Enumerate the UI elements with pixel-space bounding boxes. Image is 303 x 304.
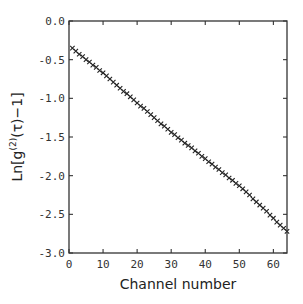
x-tick-label: 20 — [131, 258, 144, 271]
y-tick-label: -3.0 — [39, 247, 66, 260]
x-tick-label: 0 — [66, 258, 73, 271]
y-axis-label-suffix: (τ)−1] — [9, 92, 25, 137]
x-tick-label: 50 — [233, 258, 246, 271]
x-tick-label: 40 — [199, 258, 212, 271]
y-tick-label: -1.0 — [39, 92, 66, 105]
x-tick-label: 10 — [96, 258, 109, 271]
y-axis-label-superscript: (2) — [8, 138, 18, 151]
y-tick-label: -1.5 — [39, 131, 66, 144]
y-tick-label: -2.5 — [39, 208, 66, 221]
x-tick-label: 30 — [165, 258, 178, 271]
plot-area — [70, 46, 289, 234]
x-tick-label: 60 — [267, 258, 280, 271]
x-axis-label: Channel number — [120, 276, 237, 292]
y-tick-label: -2.0 — [39, 170, 66, 183]
y-axis-label-prefix: Ln[g — [9, 151, 25, 182]
y-tick-label: -0.5 — [39, 54, 66, 67]
chart: 01020304050600.0-0.5-1.0-1.5-2.0-2.5-3.0… — [0, 0, 303, 304]
y-tick-label: 0.0 — [45, 15, 65, 28]
y-axis-label: Ln[g(2)(τ)−1] — [8, 92, 25, 181]
axes: 01020304050600.0-0.5-1.0-1.5-2.0-2.5-3.0 — [39, 15, 288, 271]
